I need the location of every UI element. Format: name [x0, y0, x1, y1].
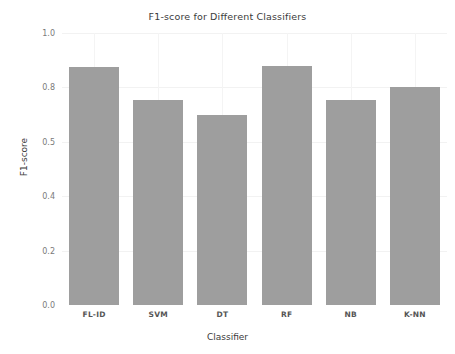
y-tick-label: 0.8	[42, 83, 55, 92]
x-tick-label: DT	[217, 310, 229, 319]
x-tick-label: FL-ID	[83, 310, 106, 319]
chart-figure: F1-score for Different Classifiers F1-sc…	[0, 0, 455, 354]
bar-k-nn	[390, 87, 440, 305]
chart-title: F1-score for Different Classifiers	[0, 11, 455, 22]
bar-fl-id	[69, 67, 119, 305]
bar-nb	[326, 100, 376, 305]
bar-svm	[133, 100, 183, 305]
y-tick-label: 0.2	[42, 246, 55, 255]
x-tick-label: SVM	[149, 310, 168, 319]
y-tick-label: 0.0	[42, 301, 55, 310]
x-tick-label: NB	[345, 310, 357, 319]
y-axis-label: F1-score	[19, 117, 29, 197]
y-tick-label: 1.0	[42, 29, 55, 38]
x-tick-label: RF	[281, 310, 292, 319]
plot-area: 0.00.20.40.50.81.0 FL-IDSVMDTRFNBK-NN	[62, 33, 447, 305]
gridline-horizontal	[62, 33, 447, 34]
y-tick-label: 0.4	[42, 192, 55, 201]
x-tick-label: K-NN	[404, 310, 426, 319]
bar-dt	[197, 115, 247, 305]
x-axis-label: Classifier	[0, 332, 455, 342]
y-tick-label: 0.5	[42, 137, 55, 146]
bar-rf	[262, 66, 312, 305]
